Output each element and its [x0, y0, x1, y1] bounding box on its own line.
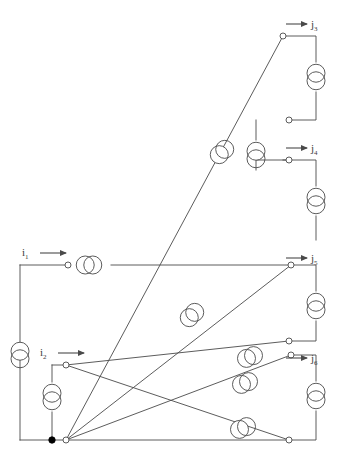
- label-subscript-i1: 1: [25, 253, 29, 261]
- label-subscript-j5: 5: [314, 259, 318, 267]
- coil-circle-a: [11, 342, 29, 360]
- coil-circle-a: [210, 146, 228, 164]
- terminal-node-i1: [65, 262, 71, 268]
- coil-circle-a: [307, 293, 325, 311]
- junction-node-common-ground: [49, 437, 55, 443]
- label-subscript-j6: 6: [314, 359, 318, 367]
- coil-circle-a: [307, 188, 325, 206]
- terminal-node-j5: [288, 262, 294, 268]
- label-subscript-j4: 4: [314, 149, 318, 157]
- circuit-diagram: i1i2j3j4j5j6: [0, 0, 337, 462]
- coil-circle-a: [307, 64, 325, 82]
- circuit-canvas: i1i2j3j4j5j6: [0, 0, 337, 462]
- terminal-node-j6-return: [286, 437, 292, 443]
- terminal-node-j3-return: [286, 117, 292, 123]
- coil-circle-a: [247, 142, 265, 160]
- terminal-node-hub: [63, 437, 69, 443]
- terminal-node-i2: [63, 362, 69, 368]
- coil-circle-a: [307, 383, 325, 401]
- terminal-node-j5-return: [286, 338, 292, 344]
- terminal-node-j6: [288, 352, 294, 358]
- coil-circle-a: [180, 309, 198, 327]
- coil-circle-a: [76, 256, 94, 274]
- terminal-node-j3: [280, 33, 286, 39]
- label-subscript-j3: 3: [314, 25, 318, 33]
- terminal-node-j4: [286, 157, 292, 163]
- label-subscript-i2: 2: [43, 353, 47, 361]
- coil-circle-a: [43, 384, 61, 402]
